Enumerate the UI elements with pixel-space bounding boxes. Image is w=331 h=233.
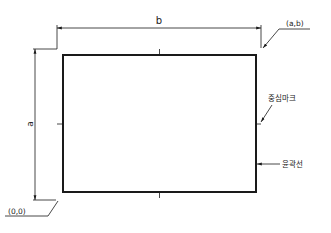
center-mark-label: 중심마크 [268, 93, 296, 103]
origin-label: (0,0) [8, 207, 26, 216]
center-mark-leader [261, 105, 272, 122]
left-extension-line [33, 25, 57, 49]
border-rectangle [63, 55, 256, 192]
corner-label: (a,b) [286, 19, 304, 28]
width-dimension [33, 25, 261, 49]
drawing-frame-diagram: b a (0,0) (a,b) 중심마크 윤곽선 [0, 0, 331, 233]
height-dimension [33, 49, 56, 200]
width-dimension-label: b [156, 15, 162, 26]
corner-leader-arrow [263, 29, 279, 48]
border-line-label: 윤곽선 [282, 159, 303, 169]
height-dimension-label: a [25, 121, 35, 127]
center-marks [57, 49, 261, 198]
